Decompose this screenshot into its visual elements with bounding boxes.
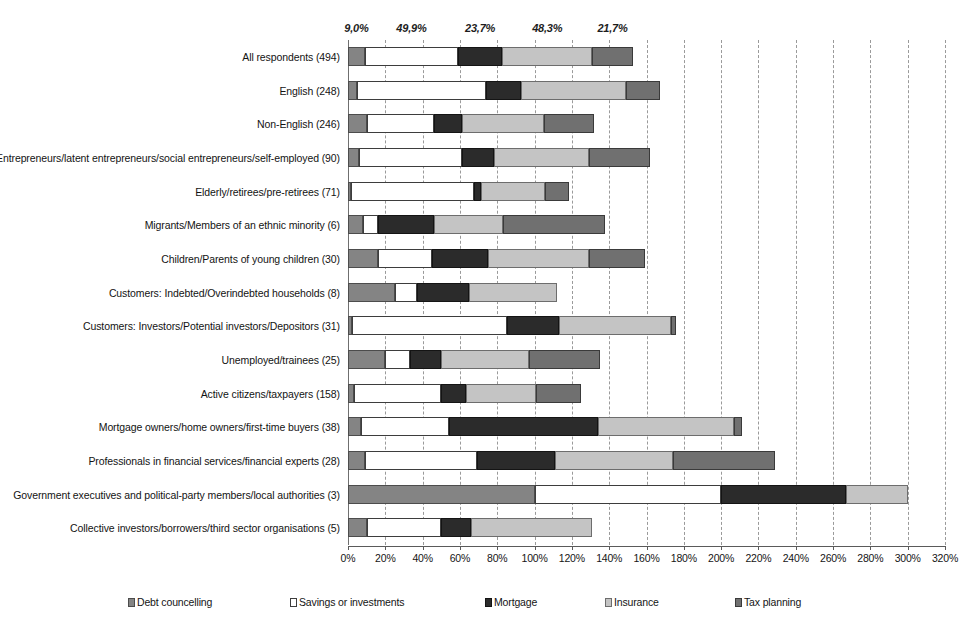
bar-segment[interactable] [363, 215, 378, 234]
bar-segment[interactable] [734, 417, 741, 436]
bar-segment[interactable] [536, 384, 581, 403]
bar-segment[interactable] [378, 215, 434, 234]
bar-segment[interactable] [544, 114, 594, 133]
stacked-bar[interactable] [348, 485, 908, 504]
legend-item[interactable]: Tax planning [735, 596, 801, 608]
bar-segment[interactable] [449, 417, 598, 436]
bar-segment[interactable] [432, 249, 488, 268]
bar-segment[interactable] [626, 81, 660, 100]
stacked-bar[interactable] [348, 316, 676, 335]
bar-segment[interactable] [367, 518, 442, 537]
bar-segment[interactable] [365, 451, 477, 470]
stacked-bar[interactable] [348, 114, 594, 133]
bar-segment[interactable] [481, 182, 544, 201]
bar-segment[interactable] [385, 350, 409, 369]
bar-segment[interactable] [410, 350, 442, 369]
bar-segment[interactable] [545, 182, 569, 201]
bar-segment[interactable] [365, 47, 458, 66]
legend-item[interactable]: Savings or investments [290, 596, 404, 608]
bar-segment[interactable] [378, 249, 432, 268]
bar-segment[interactable] [589, 249, 645, 268]
bar-segment[interactable] [502, 47, 592, 66]
bar-segment[interactable] [348, 81, 357, 100]
bar-segment[interactable] [462, 114, 544, 133]
bar-segment[interactable] [348, 114, 367, 133]
bar-segment[interactable] [494, 148, 589, 167]
bar-segment[interactable] [469, 283, 557, 302]
bar-segment[interactable] [477, 451, 555, 470]
stacked-bar[interactable] [348, 215, 605, 234]
bar-segment[interactable] [673, 451, 776, 470]
bar-segment[interactable] [348, 249, 378, 268]
bar-segment[interactable] [529, 350, 600, 369]
bar-segment[interactable] [348, 283, 395, 302]
bar-segment[interactable] [348, 350, 385, 369]
legend-item[interactable]: Debt councelling [128, 596, 212, 608]
bar-segment[interactable] [535, 485, 722, 504]
legend-label: Debt councelling [137, 596, 212, 608]
bar-segment[interactable] [367, 114, 434, 133]
legend-label: Tax planning [744, 596, 801, 608]
bar-segment[interactable] [488, 249, 589, 268]
bar-segment[interactable] [357, 81, 486, 100]
bar-segment[interactable] [352, 316, 507, 335]
stacked-bar[interactable] [348, 182, 569, 201]
bar-segment[interactable] [441, 384, 465, 403]
bar-row [348, 242, 945, 276]
bar-segment[interactable] [846, 485, 908, 504]
bar-segment[interactable] [395, 283, 417, 302]
y-axis-category-label: Government executives and political-part… [13, 489, 340, 501]
bar-segment[interactable] [348, 417, 361, 436]
legend-item[interactable]: Insurance [605, 596, 659, 608]
bar-segment[interactable] [521, 81, 625, 100]
bar-segment[interactable] [721, 485, 846, 504]
y-axis-category-label: Unemployed/trainees (25) [222, 354, 340, 366]
bar-segment[interactable] [592, 47, 632, 66]
stacked-bar[interactable] [348, 350, 600, 369]
bar-segment[interactable] [466, 384, 537, 403]
stacked-bar[interactable] [348, 518, 592, 537]
legend-item[interactable]: Mortgage [485, 596, 537, 608]
stacked-bar[interactable] [348, 417, 742, 436]
stacked-bar[interactable] [348, 249, 645, 268]
bar-segment[interactable] [434, 215, 503, 234]
stacked-bar[interactable] [348, 148, 650, 167]
bar-segment[interactable] [441, 350, 529, 369]
bar-segment[interactable] [348, 518, 367, 537]
bar-segment[interactable] [458, 47, 502, 66]
bar-segment[interactable] [417, 283, 469, 302]
bar-segment[interactable] [507, 316, 559, 335]
legend-label: Savings or investments [299, 596, 404, 608]
bar-segment[interactable] [503, 215, 606, 234]
bar-segment[interactable] [348, 47, 365, 66]
data-label: 49,9% [396, 22, 426, 34]
bar-segment[interactable] [348, 451, 365, 470]
bar-segment[interactable] [555, 451, 673, 470]
x-axis-tick-label: 0% [341, 552, 356, 564]
x-axis-tick-label: 20% [375, 552, 395, 564]
bar-segment[interactable] [598, 417, 734, 436]
bar-segment[interactable] [354, 384, 442, 403]
bar-segment[interactable] [348, 215, 363, 234]
bar-segment[interactable] [486, 81, 521, 100]
bar-segment[interactable] [671, 316, 677, 335]
stacked-bar[interactable] [348, 451, 775, 470]
bar-segment[interactable] [462, 148, 494, 167]
bar-segment[interactable] [471, 518, 592, 537]
stacked-bar[interactable] [348, 283, 557, 302]
bar-segment[interactable] [351, 182, 474, 201]
stacked-bar[interactable] [348, 47, 633, 66]
legend-swatch-icon [290, 598, 297, 607]
bar-segment[interactable] [348, 485, 535, 504]
bar-segment[interactable] [361, 417, 449, 436]
bar-segment[interactable] [559, 316, 671, 335]
bar-segment[interactable] [348, 148, 359, 167]
bar-segment[interactable] [474, 182, 481, 201]
stacked-bar[interactable] [348, 81, 660, 100]
bar-segment[interactable] [441, 518, 471, 537]
x-axis-tick [758, 546, 759, 550]
stacked-bar[interactable] [348, 384, 581, 403]
bar-segment[interactable] [359, 148, 462, 167]
bar-segment[interactable] [589, 148, 651, 167]
bar-segment[interactable] [434, 114, 462, 133]
